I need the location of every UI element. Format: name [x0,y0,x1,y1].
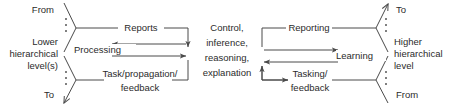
left-lower-ellipsis [65,71,67,85]
center-text-line3: reasoning, [196,52,258,63]
right-upper-fan [362,4,388,52]
left-from-label: From [8,4,54,15]
edge-tasking-path [262,66,288,80]
left-upper-ellipsis [65,18,67,32]
edge-label-learning: Learning [336,50,386,61]
edge-label-task-propagation-line2: feedback [96,82,184,93]
center-text-line2: inference, [196,37,258,48]
left-to-label: To [8,89,54,100]
left-hierarchy-label-line2: hierarchical [0,48,58,59]
left-hierarchy-label-line3: level(s) [0,60,58,71]
edge-label-tasking-line1: Tasking/ [286,68,334,79]
right-hierarchy-label-line1: Higher [394,36,452,47]
right-hierarchy-label-line2: hierarchical [394,48,452,59]
right-from-label: From [396,89,440,100]
diagram-canvas: From Lower hierarchical level(s) To Repo… [0,0,452,107]
left-hierarchy-label-line1: Lower [0,36,58,47]
right-hierarchy-label-line3: level [394,60,452,71]
right-to-label: To [396,4,436,15]
center-text-line1: Control, [196,22,258,33]
edge-reporting-path [262,28,288,47]
edge-label-task-propagation-line1: Task/propagation/ [96,68,184,79]
right-lower-fan [362,56,388,103]
edge-label-reporting: Reporting [286,22,332,33]
left-lower-fan [64,56,90,103]
center-text-line4: explanation [194,67,260,78]
edge-label-tasking-line2: feedback [286,82,334,93]
right-upper-ellipsis [385,18,387,32]
right-lower-ellipsis [385,71,387,85]
edge-label-processing: Processing [74,44,136,55]
edge-label-reports: Reports [118,22,164,33]
